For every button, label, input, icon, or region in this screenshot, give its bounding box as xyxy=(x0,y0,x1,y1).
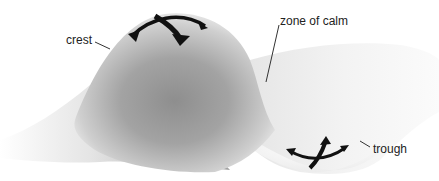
zone-of-calm-label: zone of calm xyxy=(280,15,348,27)
crest-leader-line xyxy=(95,42,110,49)
trough-label: trough xyxy=(373,143,407,155)
crest-label: crest xyxy=(66,34,92,46)
